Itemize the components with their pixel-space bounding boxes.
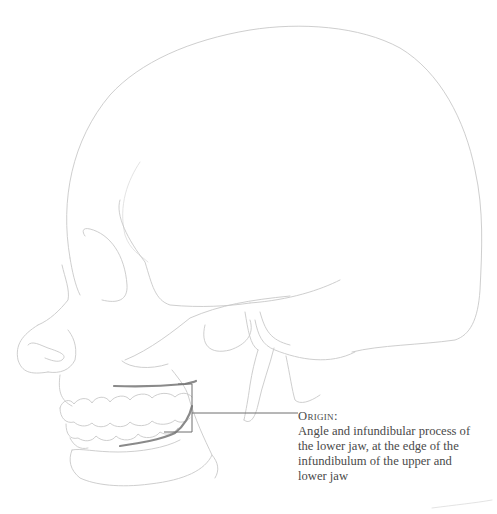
- origin-annotation: Origin: Angle and infundibular process o…: [298, 409, 488, 484]
- origin-heading: Origin:: [298, 409, 488, 424]
- origin-text-line-1: Angle and infundibular process of: [298, 424, 488, 439]
- lower-origin-line: [120, 406, 192, 446]
- origin-text-line-3: infundibulum of the upper and: [298, 454, 488, 469]
- illustration-canvas: Origin: Angle and infundibular process o…: [0, 0, 497, 514]
- origin-text-line-4: lower jaw: [298, 469, 488, 484]
- origin-text-line-2: the lower jaw, at the edge of the: [298, 439, 488, 454]
